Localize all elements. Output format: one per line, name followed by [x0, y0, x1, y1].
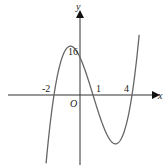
tick-label-1: 1	[96, 84, 101, 94]
function-graph	[0, 0, 165, 165]
x-axis-label: x	[158, 91, 162, 101]
tick-label-16: 16	[68, 47, 78, 57]
tick-label-4: 4	[124, 84, 129, 94]
origin-label: O	[70, 99, 77, 109]
tick-label-neg2: -2	[42, 84, 50, 94]
cubic-curve	[46, 35, 139, 164]
y-axis-label: y	[76, 2, 80, 12]
